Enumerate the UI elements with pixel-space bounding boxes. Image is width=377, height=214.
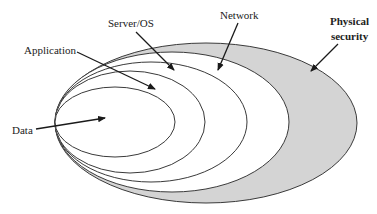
label-server-os: Server/OS: [108, 17, 154, 30]
label-network: Network: [220, 9, 259, 22]
label-application: Application: [24, 44, 76, 57]
label-data: Data: [12, 124, 33, 137]
label-line: Network: [220, 9, 259, 22]
arrow-icon: [311, 44, 338, 71]
security-layers-diagram: [0, 0, 377, 214]
label-line: security: [330, 29, 369, 44]
label-line: Data: [12, 124, 33, 137]
label-line: Server/OS: [108, 17, 154, 30]
label-physical-security: Physicalsecurity: [330, 14, 369, 44]
label-line: Physical: [330, 14, 369, 29]
label-line: Application: [24, 44, 76, 57]
layer-ellipses: [55, 43, 357, 203]
layer-data-ellipse: [55, 87, 175, 157]
